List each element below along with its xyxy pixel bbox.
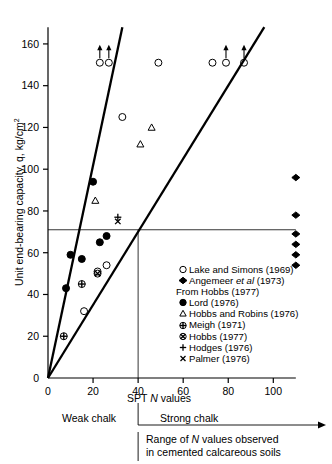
legend-label: Palmer (1976)	[189, 353, 250, 364]
y-tick-label: 80	[27, 205, 39, 217]
data-point	[92, 197, 99, 203]
y-axis-title: Unit end-bearing capacity, q, kg/cm2	[13, 97, 26, 307]
data-point	[103, 233, 110, 240]
data-point	[137, 141, 144, 147]
data-point	[155, 59, 162, 66]
data-point	[209, 59, 216, 66]
data-point	[292, 241, 300, 247]
legend-label: Lake and Simons (1969)	[189, 264, 294, 275]
legend-marker-filled-circle-icon	[176, 297, 189, 308]
x-tick-label: 100	[265, 385, 283, 397]
data-point	[96, 239, 103, 246]
legend-label: Hobbs and Robins (1976)	[189, 308, 298, 319]
series-diamond	[292, 174, 300, 268]
legend-marker-triangle-icon	[176, 308, 189, 319]
legend-marker-plus-icon	[176, 342, 189, 353]
legend-label: Hodges (1976)	[189, 342, 252, 353]
data-point	[63, 285, 70, 292]
data-point	[103, 262, 110, 269]
data-point	[81, 308, 88, 315]
data-point	[292, 231, 300, 237]
up-arrow-icon	[223, 45, 228, 59]
legend-item: Hobbs (1977)	[176, 331, 298, 342]
data-point	[292, 212, 300, 218]
legend-item: Lord (1976)	[176, 297, 298, 308]
data-point	[222, 45, 229, 67]
legend-label: Lord (1976)	[189, 297, 239, 308]
legend-marker-circle-plus-icon	[176, 320, 189, 331]
legend-label: Hobbs (1977)	[189, 331, 247, 342]
strong-chalk-label: Strong chalk	[160, 412, 218, 424]
legend-item: Hodges (1976)	[176, 342, 298, 353]
data-point	[78, 255, 85, 262]
legend-item: Angemeer et al (1973)	[176, 275, 298, 286]
y-tick-label: 60	[27, 247, 39, 259]
data-point	[119, 114, 126, 121]
legend-marker-diamond-icon	[176, 275, 189, 286]
y-tick-label: 140	[21, 79, 39, 91]
legend-item: Lake and Simons (1969)	[176, 264, 298, 275]
data-point	[148, 124, 155, 130]
data-point	[67, 251, 74, 258]
legend-item: From Hobbs (1977)	[176, 286, 298, 297]
data-point	[292, 252, 300, 258]
y-tick-label: 40	[27, 288, 39, 300]
data-point	[78, 281, 85, 288]
weak-chalk-label: Weak chalk	[62, 412, 116, 424]
x-axis-title: SPT N values	[127, 392, 191, 404]
up-arrow-icon	[97, 45, 102, 59]
x-tick-label: 20	[87, 385, 99, 397]
legend-item: Meigh (1971)	[176, 319, 298, 330]
legend-marker-open-circle-icon	[176, 264, 189, 275]
legend-label: Angemeer et al (1973)	[189, 275, 284, 286]
legend-group-header: From Hobbs (1977)	[176, 286, 259, 297]
legend: Lake and Simons (1969)Angemeer et al (19…	[176, 264, 298, 364]
data-point	[60, 333, 67, 340]
series-triangle	[92, 124, 155, 203]
y-tick-label: 20	[27, 330, 39, 342]
data-point	[90, 178, 97, 185]
y-tick-label: 160	[21, 38, 39, 50]
legend-marker-circle-cross-icon	[176, 331, 189, 342]
range-of-n-values-note: Range of N values observedin cemented ca…	[146, 433, 281, 458]
legend-label: Meigh (1971)	[189, 319, 246, 330]
up-arrow-icon	[106, 45, 111, 59]
x-tick-label: 80	[222, 385, 234, 397]
legend-item: Palmer (1976)	[176, 353, 298, 364]
data-point	[96, 45, 103, 67]
y-tick-label: 0	[33, 372, 39, 384]
legend-marker-cross-icon	[176, 353, 189, 364]
data-point	[292, 174, 300, 180]
legend-item: Hobbs and Robins (1976)	[176, 308, 298, 319]
data-point	[105, 45, 112, 67]
x-tick-label: 0	[45, 385, 51, 397]
